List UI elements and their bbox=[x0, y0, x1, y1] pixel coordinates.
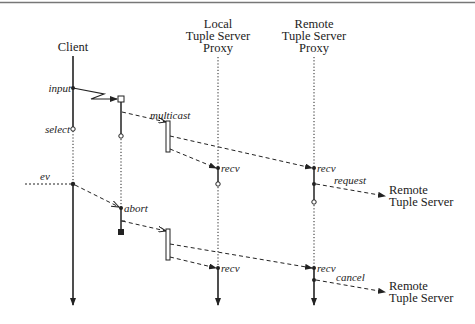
cancel-label: cancel bbox=[336, 271, 365, 283]
multicast-to-local-1 bbox=[170, 149, 216, 168]
thread-start-box bbox=[118, 96, 124, 102]
select-open-circle bbox=[71, 127, 75, 131]
local-proxy-header: Local Tuple Server Proxy bbox=[186, 17, 251, 55]
multicast-to-remote-2 bbox=[170, 244, 312, 268]
client-header: Client bbox=[58, 40, 89, 54]
local-wait-circle bbox=[216, 182, 220, 186]
select-label: select bbox=[45, 123, 71, 135]
multicast-to-local-2 bbox=[170, 257, 216, 268]
multicast-activation-box-1 bbox=[166, 121, 170, 152]
abort-label: abort bbox=[124, 202, 149, 214]
ev-label: ev bbox=[40, 170, 50, 182]
ev-to-abort-arrow bbox=[75, 185, 119, 207]
remote-proxy-lifeline bbox=[312, 57, 316, 305]
client-lifeline bbox=[71, 56, 75, 305]
multicast-activation-box-2 bbox=[166, 229, 170, 260]
local-proxy-lifeline bbox=[216, 57, 220, 305]
thread-end-square bbox=[118, 229, 124, 235]
input-zigzag-arrow bbox=[73, 88, 117, 99]
local-recv-label-2: recv bbox=[221, 262, 240, 274]
request-target-label-2: Tuple Server bbox=[389, 195, 454, 209]
ev-event-dot bbox=[71, 182, 75, 186]
request-event-dot bbox=[312, 182, 316, 186]
client-label: Client bbox=[58, 40, 89, 54]
input-label: input bbox=[48, 82, 72, 94]
multicast-to-remote-1 bbox=[170, 136, 312, 168]
request-label: request bbox=[334, 174, 367, 186]
multicast-label: multicast bbox=[150, 109, 191, 121]
sequence-diagram: Client Local Tuple Server Proxy Remote T… bbox=[0, 0, 475, 324]
remote-proxy-header: Remote Tuple Server Proxy bbox=[282, 17, 347, 55]
local-recv-label-1: recv bbox=[221, 162, 240, 174]
remote-recv-label-1: recv bbox=[317, 162, 336, 174]
worker-thread-lifeline bbox=[118, 96, 125, 235]
cancel-target-label-2: Tuple Server bbox=[389, 291, 454, 305]
remote-recv-label-2: recv bbox=[317, 262, 336, 274]
remote-wait-circle bbox=[312, 200, 316, 204]
remote-proxy-label-3: Proxy bbox=[299, 41, 330, 55]
local-proxy-label-3: Proxy bbox=[203, 41, 234, 55]
cancel-event-dot bbox=[312, 278, 316, 282]
thread-wait-circle bbox=[119, 134, 123, 138]
abort-to-multicast-arrow bbox=[122, 221, 166, 231]
